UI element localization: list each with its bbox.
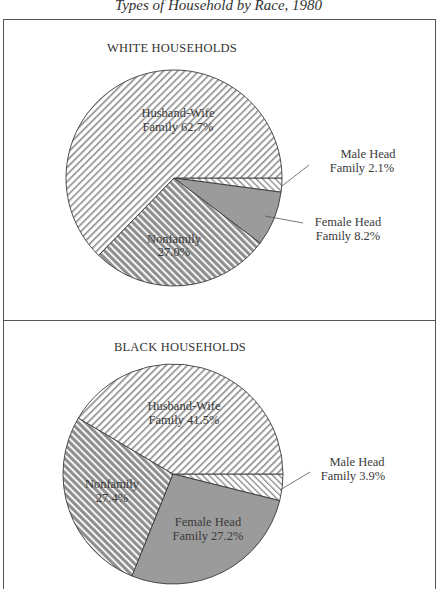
black-female-head-label-1: Female Head	[175, 515, 242, 529]
white-male-head-leader-line	[282, 165, 309, 186]
white-nonfamily-label-2: 27.0%	[158, 245, 190, 259]
white-male-head-label-1: Male Head	[340, 147, 396, 161]
white-female-head-label-1: Female Head	[315, 215, 382, 229]
white-nonfamily-label-1: Nonfamily	[147, 232, 202, 246]
black-male-head-label-1: Male Head	[329, 455, 385, 469]
black-households-pie	[63, 364, 283, 584]
black-male-head-label-2: Family 3.9%	[321, 469, 386, 483]
black-nonfamily-label-2: 27.4%	[96, 491, 128, 505]
pie-charts: Husband-Wife Family 62.7% Male Head Fami…	[0, 0, 437, 589]
black-nonfamily-label-1: Nonfamily	[85, 477, 140, 491]
black-female-head-label-2: Family 27.2%	[173, 529, 244, 543]
black-husband-wife-label-1: Husband-Wife	[147, 399, 221, 413]
white-husband-wife-label-1: Husband-Wife	[141, 106, 215, 120]
white-male-head-label-2: Family 2.1%	[330, 161, 395, 175]
white-female-head-label-2: Family 8.2%	[316, 229, 381, 243]
black-male-head-leader-line	[280, 472, 310, 490]
black-husband-wife-label-2: Family 41.5%	[149, 413, 220, 427]
white-husband-wife-label-2: Family 62.7%	[143, 120, 214, 134]
